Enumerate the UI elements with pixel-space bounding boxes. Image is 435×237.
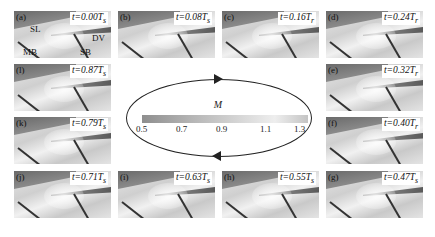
main-shock (329, 147, 359, 164)
panel-label: (j) (16, 172, 25, 182)
main-shock (225, 41, 255, 58)
time-label: t=0.55Ts (278, 172, 316, 185)
time-label: t=0.79Ts (70, 118, 108, 131)
main-shock (121, 201, 151, 218)
main-shock (17, 201, 47, 218)
panel-h: (h)t=0.55Ts (222, 171, 319, 218)
panel-d: (d)t=0.24Tr (326, 11, 423, 58)
time-label: t=0.24Tr (382, 12, 420, 25)
main-shock (329, 41, 359, 58)
flow-region (44, 76, 84, 102)
panel-label: (f) (328, 118, 337, 128)
panel-l: (l)t=0.87Ts (14, 64, 111, 111)
panel-label: (g) (328, 172, 339, 182)
panel-k: (k)t=0.79Ts (14, 117, 111, 164)
colorbar-tick: 1.3 (294, 124, 305, 134)
panel-label: (c) (224, 12, 234, 22)
time-label: t=0.16Tr (278, 12, 316, 25)
main-shock (329, 94, 359, 111)
colorbar-tick: 0.5 (136, 124, 147, 134)
flow-region (44, 23, 84, 49)
arrow-right-icon (214, 74, 223, 84)
flow-region (356, 183, 396, 209)
time-label: t=0.47Ts (382, 172, 420, 185)
time-label: t=0.87Ts (70, 65, 108, 78)
colorbar (142, 115, 308, 123)
panel-f: (f)t=0.40Tr (326, 117, 423, 164)
annotation-sl: SL (30, 24, 41, 34)
time-label: t=0.08Ts (174, 12, 212, 25)
panel-label: (i) (120, 172, 129, 182)
flow-region (356, 23, 396, 49)
panel-c: (c)t=0.16Tr (222, 11, 319, 58)
colorbar-tick: 1.1 (260, 124, 271, 134)
arrow-left-icon (212, 151, 221, 161)
main-shock (121, 41, 151, 58)
annotation-dv: DV (92, 33, 105, 43)
main-shock (225, 201, 255, 218)
time-label: t=0.32Tr (382, 65, 420, 78)
panel-g: (g)t=0.47Ts (326, 171, 423, 218)
annotation-sb: SB (80, 47, 91, 57)
time-label: t=0.40Tr (382, 118, 420, 131)
panel-b: (b)t=0.08Ts (118, 11, 215, 58)
main-shock (329, 201, 359, 218)
main-shock (17, 94, 47, 111)
main-shock (17, 147, 47, 164)
colorbar-title: M (118, 99, 318, 110)
flow-region (44, 183, 84, 209)
panel-label: (e) (328, 65, 338, 75)
colorbar-ticks: 0.5 0.7 0.9 1.1 1.3 (136, 124, 316, 136)
flow-region (148, 183, 188, 209)
flow-region (356, 76, 396, 102)
cycle-legend: M 0.5 0.7 0.9 1.1 1.3 (118, 65, 318, 170)
colorbar-tick: 0.7 (176, 124, 187, 134)
panel-label: (l) (16, 65, 25, 75)
flow-region (252, 23, 292, 49)
colorbar-tick: 0.9 (216, 124, 227, 134)
panel-label: (d) (328, 12, 339, 22)
panel-label: (a) (16, 12, 26, 22)
panel-i: (i)t=0.63Ts (118, 171, 215, 218)
flow-region (356, 129, 396, 155)
panel-label: (b) (120, 12, 131, 22)
time-label: t=0.71Ts (70, 172, 108, 185)
time-label: t=0.63Ts (174, 172, 212, 185)
annotation-mb: MB (23, 47, 37, 57)
flow-region (252, 183, 292, 209)
panel-label: (k) (16, 118, 27, 128)
flow-region (148, 23, 188, 49)
panel-j: (j)t=0.71Ts (14, 171, 111, 218)
panel-label: (h) (224, 172, 235, 182)
flow-region (44, 129, 84, 155)
time-label: t=0.00Ts (70, 12, 108, 25)
panel-e: (e)t=0.32Tr (326, 64, 423, 111)
